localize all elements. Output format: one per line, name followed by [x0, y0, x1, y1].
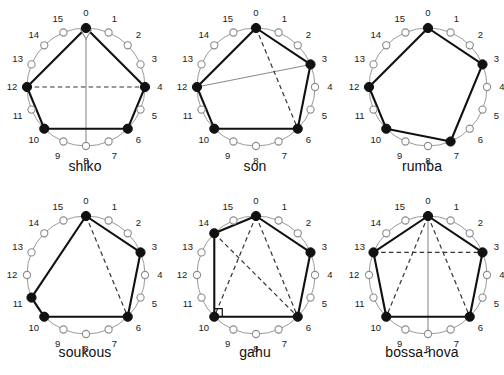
panel-rumba: 0123456789101112131415 rumba	[340, 0, 504, 188]
node-label-15: 15	[394, 201, 405, 212]
node-label-5: 5	[152, 110, 157, 121]
node-label-14: 14	[370, 217, 381, 228]
node-label-2: 2	[136, 29, 141, 40]
caption-shiko: shiko	[0, 158, 170, 174]
node-label-6: 6	[306, 134, 311, 145]
caption-rumba: rumba	[340, 158, 504, 174]
node-label-3: 3	[152, 53, 157, 64]
node-label-2: 2	[306, 217, 311, 228]
node-label-12: 12	[7, 81, 18, 92]
panel-shiko: 0123456789101112131415 shiko	[0, 0, 170, 188]
node-label-15: 15	[222, 13, 233, 24]
node-label-15: 15	[222, 201, 233, 212]
node-label-12: 12	[177, 269, 188, 280]
node-label-15: 15	[52, 201, 63, 212]
node-label-10: 10	[198, 322, 209, 333]
node-label-13: 13	[12, 53, 23, 64]
node-label-5: 5	[322, 110, 327, 121]
node-label-4: 4	[327, 269, 332, 280]
node-label-2: 2	[478, 29, 483, 40]
node-label-3: 3	[494, 241, 499, 252]
panel-son: 0123456789101112131415 son	[170, 0, 340, 188]
node-label-2: 2	[478, 217, 483, 228]
node-label-6: 6	[478, 322, 483, 333]
node-label-5: 5	[152, 298, 157, 309]
node-label-1: 1	[282, 201, 287, 212]
panel-soukous: 0123456789101112131415 soukous	[0, 188, 170, 375]
node-label-10: 10	[370, 322, 381, 333]
node-label-11: 11	[355, 298, 365, 309]
node-label-13: 13	[182, 241, 193, 252]
node-label-11: 11	[183, 110, 193, 121]
node-label-1: 1	[112, 13, 117, 24]
node-label-14: 14	[198, 29, 209, 40]
node-label-5: 5	[494, 110, 499, 121]
node-label-1: 1	[454, 13, 459, 24]
node-label-13: 13	[12, 241, 23, 252]
node-label-3: 3	[152, 241, 157, 252]
node-label-0: 0	[425, 7, 430, 18]
node-label-14: 14	[370, 29, 381, 40]
panel-gahu: 0123456789101112131415 gahu	[170, 188, 340, 375]
node-label-0: 0	[425, 195, 430, 206]
node-label-0: 0	[253, 7, 258, 18]
node-label-2: 2	[136, 217, 141, 228]
node-label-4: 4	[499, 81, 504, 92]
node-label-1: 1	[282, 13, 287, 24]
node-label-13: 13	[182, 53, 193, 64]
node-label-3: 3	[322, 53, 327, 64]
node-label-2: 2	[306, 29, 311, 40]
node-label-14: 14	[28, 217, 39, 228]
node-label-12: 12	[177, 81, 188, 92]
node-label-15: 15	[394, 13, 405, 24]
node-label-5: 5	[494, 298, 499, 309]
node-label-4: 4	[157, 269, 162, 280]
node-label-6: 6	[136, 322, 141, 333]
node-label-15: 15	[52, 13, 63, 24]
node-label-11: 11	[13, 110, 23, 121]
node-label-1: 1	[454, 201, 459, 212]
node-label-13: 13	[354, 241, 365, 252]
panel-bossa-nova: 0123456789101112131415 bossa-nova	[340, 188, 504, 375]
node-label-12: 12	[349, 269, 360, 280]
node-label-0: 0	[253, 195, 258, 206]
node-label-4: 4	[499, 269, 504, 280]
node-label-0: 0	[83, 195, 88, 206]
node-label-14: 14	[198, 217, 209, 228]
caption-son: son	[170, 158, 340, 174]
node-label-10: 10	[28, 322, 39, 333]
node-label-10: 10	[370, 134, 381, 145]
node-label-12: 12	[349, 81, 360, 92]
node-label-11: 11	[13, 298, 23, 309]
node-label-10: 10	[198, 134, 209, 145]
node-label-1: 1	[112, 201, 117, 212]
node-label-3: 3	[322, 241, 327, 252]
caption-soukous: soukous	[0, 344, 170, 360]
node-label-11: 11	[355, 110, 365, 121]
node-label-4: 4	[327, 81, 332, 92]
node-label-6: 6	[478, 134, 483, 145]
node-label-5: 5	[322, 298, 327, 309]
node-label-6: 6	[136, 134, 141, 145]
node-label-12: 12	[7, 269, 18, 280]
caption-bossa-nova: bossa-nova	[340, 344, 504, 360]
node-label-11: 11	[183, 298, 193, 309]
node-label-6: 6	[306, 322, 311, 333]
caption-gahu: gahu	[170, 344, 340, 360]
panel-grid: 0123456789101112131415 shiko 01234567891…	[0, 0, 504, 375]
node-label-0: 0	[83, 7, 88, 18]
node-label-10: 10	[28, 134, 39, 145]
rhythm-necklace-figure: 0123456789101112131415 shiko 01234567891…	[0, 0, 504, 375]
node-label-4: 4	[157, 81, 162, 92]
node-label-13: 13	[354, 53, 365, 64]
node-label-14: 14	[28, 29, 39, 40]
node-label-3: 3	[494, 53, 499, 64]
